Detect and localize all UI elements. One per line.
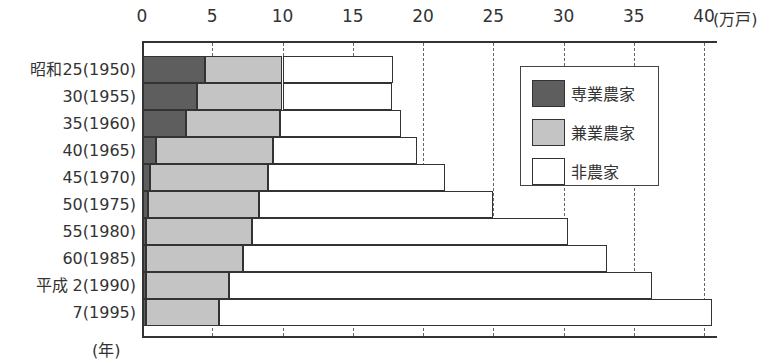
legend-label: 非農家: [571, 159, 619, 183]
bar-segment-part: [146, 245, 243, 272]
y-axis-line: [142, 41, 144, 338]
y-category-label: 昭和25(1950): [30, 56, 136, 83]
bar-segment-non: [252, 218, 568, 245]
x-tick-label: 5: [207, 6, 218, 26]
gridline: [704, 43, 705, 336]
legend: 専業農家 兼業農家 非農家: [520, 66, 659, 186]
legend-swatch-part-time: [532, 119, 565, 146]
bar-segment-part: [205, 56, 282, 83]
y-category-label: 35(1960): [62, 110, 136, 137]
legend-label: 兼業農家: [571, 120, 635, 144]
bar-segment-full: [142, 137, 156, 164]
x-tick-label: 40: [693, 6, 715, 26]
bar-segment-non: [229, 272, 652, 299]
bar-segment-non: [283, 56, 394, 83]
legend-item-non-farm: 非農家: [532, 157, 619, 185]
bar-segment-full: [142, 83, 197, 110]
legend-item-part-time-farm: 兼業農家: [532, 118, 635, 146]
x-axis-top-line: [142, 41, 717, 43]
y-category-label: 7(1995): [73, 299, 136, 326]
bar-segment-non: [259, 191, 494, 218]
bar-segment-part: [156, 137, 273, 164]
bar-segment-part: [148, 191, 259, 218]
x-axis-unit-label: (万戸): [713, 6, 757, 30]
legend-label: 専業農家: [571, 81, 635, 105]
bar-segment-full: [142, 110, 186, 137]
bar-segment-part: [146, 299, 219, 326]
y-category-label: 60(1985): [62, 245, 136, 272]
y-category-label: 40(1965): [62, 137, 136, 164]
bar-segment-non: [273, 137, 418, 164]
bar-segment-non: [280, 110, 401, 137]
x-tick-label: 10: [272, 6, 294, 26]
bar-segment-non: [219, 299, 712, 326]
bar-segment-part: [150, 164, 268, 191]
x-tick-label: 25: [482, 6, 504, 26]
x-tick-label: 0: [137, 6, 148, 26]
y-category-label: 50(1975): [62, 191, 136, 218]
y-category-label: 55(1980): [62, 218, 136, 245]
x-axis-bottom-line: [142, 336, 717, 338]
legend-swatch-non-farm: [532, 158, 565, 185]
x-tick-label: 30: [553, 6, 575, 26]
bar-segment-part: [197, 83, 283, 110]
y-axis-unit-label: (年): [92, 337, 120, 361]
bar-segment-non: [283, 83, 393, 110]
bar-segment-part: [146, 272, 229, 299]
bar-segment-part: [186, 110, 280, 137]
y-category-label: 平成 2(1990): [36, 272, 136, 299]
bar-segment-full: [142, 56, 205, 83]
bar-segment-part: [146, 218, 251, 245]
x-tick-label: 35: [623, 6, 645, 26]
y-category-label: 30(1955): [62, 83, 136, 110]
bar-segment-non: [243, 245, 607, 272]
y-category-label: 45(1970): [62, 164, 136, 191]
x-tick-label: 20: [412, 6, 434, 26]
legend-item-full-time-farm: 専業農家: [532, 79, 635, 107]
legend-swatch-full-time: [532, 80, 565, 107]
bar-segment-non: [268, 164, 445, 191]
x-tick-label: 15: [342, 6, 364, 26]
